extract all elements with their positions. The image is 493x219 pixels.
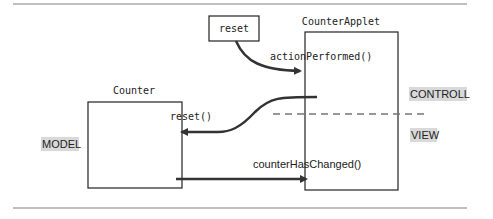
mvc-diagram: reset CounterApplet Counter actionPerfor… xyxy=(0,0,493,219)
counter-title: Counter xyxy=(113,85,155,96)
action-performed-label: actionPerformed() xyxy=(270,51,372,62)
counter-has-changed-label: counterHasChanged() xyxy=(253,158,361,170)
counter-box xyxy=(88,102,182,188)
model-layer-label: MODEL xyxy=(42,138,81,150)
reset-button-label: reset xyxy=(219,23,249,34)
counter-applet-title: CounterApplet xyxy=(302,16,380,27)
reset-call-label: reset() xyxy=(170,111,212,122)
view-layer-label: VIEW xyxy=(411,129,440,141)
controller-layer-label: CONTROLL xyxy=(410,88,470,100)
